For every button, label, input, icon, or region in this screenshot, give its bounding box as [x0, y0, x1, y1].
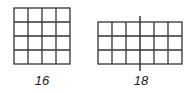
rect-grid-label: 18 — [134, 74, 148, 87]
square-grid-label: 16 — [35, 74, 49, 87]
rect-grid-figure: 18 — [95, 0, 191, 93]
square-grid-figure: 16 — [0, 0, 95, 93]
